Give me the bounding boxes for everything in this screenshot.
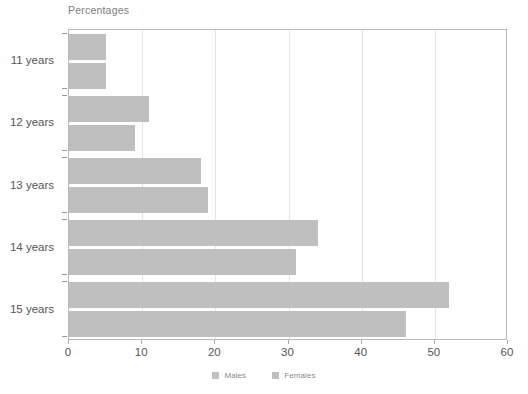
- y-tick-mark: [62, 274, 67, 275]
- legend-label: Males: [224, 371, 246, 380]
- bar: [69, 220, 318, 246]
- x-tick-label: 10: [135, 346, 148, 358]
- y-tick-mark: [62, 95, 67, 96]
- x-tick-mark: [141, 340, 142, 344]
- x-tick-label: 50: [427, 346, 440, 358]
- x-tick-mark: [68, 340, 69, 344]
- y-tick-label: 13 years: [10, 179, 54, 191]
- x-tick-mark: [214, 340, 215, 344]
- bars-layer: [69, 30, 506, 339]
- x-tick-mark: [361, 340, 362, 344]
- x-tick-label: 30: [281, 346, 294, 358]
- y-tick-label: 14 years: [10, 241, 54, 253]
- chart-title: Percentages: [68, 4, 129, 16]
- bar-chart: Percentages 11 years12 years13 years14 y…: [0, 0, 528, 394]
- x-tick-mark: [507, 340, 508, 344]
- bar: [69, 158, 201, 184]
- legend-item-females: Females: [272, 371, 315, 380]
- y-tick-mark: [62, 336, 67, 337]
- bar: [69, 249, 296, 275]
- bar: [69, 311, 406, 337]
- x-axis: 0102030405060: [68, 340, 507, 346]
- bar: [69, 96, 149, 122]
- y-tick-mark: [62, 219, 67, 220]
- x-tick-label: 20: [208, 346, 221, 358]
- bar: [69, 125, 135, 151]
- y-tick-label: 12 years: [10, 116, 54, 128]
- bar: [69, 187, 208, 213]
- bar: [69, 63, 106, 89]
- y-tick-mark: [62, 150, 67, 151]
- legend-swatch-icon: [272, 372, 279, 379]
- y-tick-label: 11 years: [11, 54, 54, 66]
- legend-label: Females: [284, 371, 315, 380]
- x-tick-label: 60: [501, 346, 514, 358]
- bar: [69, 282, 449, 308]
- plot-area: [68, 29, 507, 340]
- y-tick-mark: [62, 212, 67, 213]
- legend-swatch-icon: [212, 372, 219, 379]
- x-tick-mark: [434, 340, 435, 344]
- chart-legend: MalesFemales: [0, 371, 528, 380]
- y-axis: 11 years12 years13 years14 years15 years: [0, 29, 62, 340]
- y-tick-mark: [62, 281, 67, 282]
- y-tick-mark: [62, 33, 67, 34]
- x-tick-label: 0: [65, 346, 71, 358]
- y-tick-mark: [62, 157, 67, 158]
- bar: [69, 34, 106, 60]
- x-tick-label: 40: [354, 346, 367, 358]
- x-tick-mark: [288, 340, 289, 344]
- y-tick-mark: [62, 88, 67, 89]
- legend-item-males: Males: [212, 371, 246, 380]
- y-tick-label: 15 years: [10, 303, 54, 315]
